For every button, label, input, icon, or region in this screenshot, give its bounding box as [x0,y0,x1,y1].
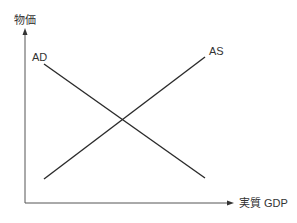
x-axis-arrow-icon [227,201,234,206]
ad-as-diagram: 物価 実質 GDP AD AS [0,0,297,223]
ad-label: AD [32,51,47,63]
y-axis-arrow-icon [23,28,28,35]
y-axis-label: 物価 [14,13,36,26]
as-label: AS [209,45,224,57]
x-axis-label: 実質 GDP [239,196,288,209]
